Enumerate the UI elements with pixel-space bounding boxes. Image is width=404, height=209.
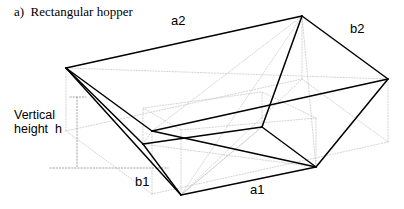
figure-container: a) Rectangular hopper a2 b2 a1 b1 Vertic… <box>0 0 404 209</box>
slope-edge-front-left <box>66 68 181 195</box>
fan-line-2 <box>181 79 302 195</box>
fan-line-4 <box>302 16 316 167</box>
outlet-edge-a1 <box>181 167 316 195</box>
slope-edge-back-left <box>66 68 143 144</box>
fan-line-6 <box>143 131 152 144</box>
mid-construction-rect <box>143 92 316 130</box>
dimension-label-b1: b1 <box>135 175 149 190</box>
fan-line-3 <box>181 16 302 195</box>
dimension-label-b2: b2 <box>350 22 364 37</box>
hopper-diagram <box>0 0 404 209</box>
figure-caption: a) Rectangular hopper <box>14 4 133 20</box>
vertical-height-label: Vertical height h <box>14 108 62 136</box>
top-rim-diagonal-1 <box>66 68 388 79</box>
top-rim-edge-b2 <box>302 16 388 79</box>
top-rim-edge-far-b <box>66 68 152 131</box>
slope-edge-back-right <box>262 16 302 127</box>
dimension-label-a2: a2 <box>171 14 185 29</box>
dimension-label-a1: a1 <box>250 183 264 198</box>
